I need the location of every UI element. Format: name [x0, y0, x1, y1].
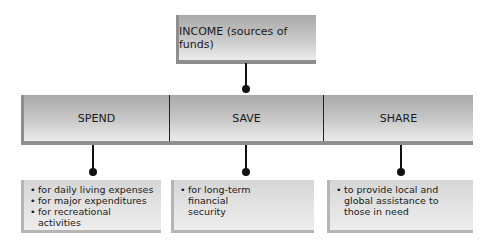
- category-share-label: SHARE: [380, 112, 417, 125]
- category-save-label: SAVE: [232, 112, 260, 125]
- income-label: INCOME (sources of funds): [179, 25, 316, 51]
- save-details-box: for long-term financial security: [171, 180, 314, 233]
- spend-item: for recreational activities: [30, 206, 155, 228]
- spend-connector-dot: [89, 168, 97, 176]
- category-spend: SPEND: [24, 95, 170, 141]
- income-node: INCOME (sources of funds): [176, 15, 316, 64]
- share-details-box: to provide local and global assistance t…: [327, 180, 473, 233]
- category-spend-label: SPEND: [78, 112, 115, 125]
- save-connector-dot: [242, 168, 250, 176]
- save-item: for long-term financial security: [180, 184, 268, 217]
- spend-item: for daily living expenses: [30, 184, 155, 195]
- spend-details-box: for daily living expenses for major expe…: [21, 180, 161, 233]
- income-connector-dot: [242, 85, 250, 93]
- spend-item: for major expenditures: [30, 195, 155, 206]
- share-item: to provide local and global assistance t…: [336, 184, 462, 217]
- categories-bar: SPEND SAVE SHARE: [21, 95, 473, 145]
- share-connector-dot: [397, 168, 405, 176]
- category-save: SAVE: [170, 95, 324, 141]
- category-share: SHARE: [324, 95, 473, 141]
